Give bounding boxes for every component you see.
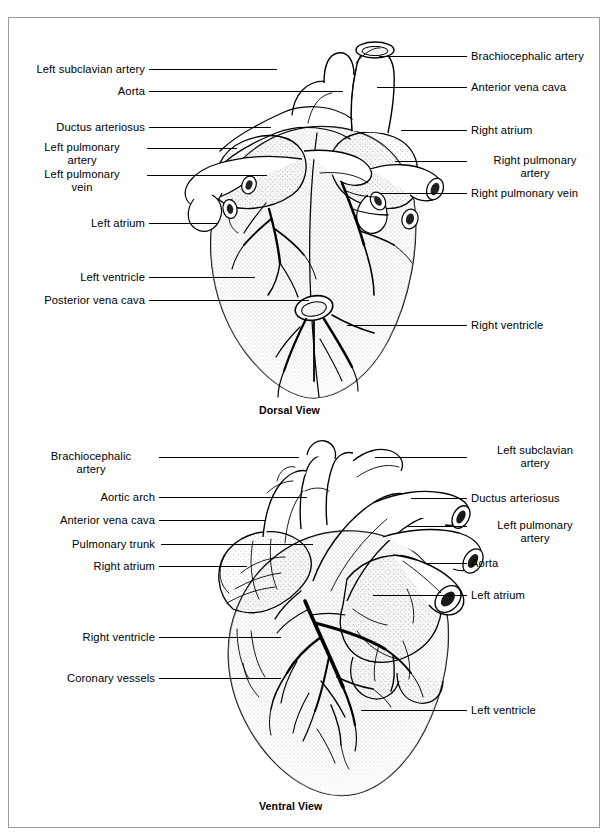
leader-anterior-vena-cava-dorsal	[377, 87, 467, 88]
label-left-pulmonary-vein-dorsal: Left pulmonary vein	[19, 168, 145, 195]
label-left-ventricle-ventral: Left ventricle	[471, 704, 599, 717]
leader-ductus-arteriosus-dorsal	[149, 127, 271, 128]
label-right-ventricle-ventral: Right ventricle	[19, 631, 155, 644]
leader-brachiocephalic-artery-ventral	[159, 457, 299, 458]
leader-aortic-arch-ventral	[159, 497, 307, 498]
ventral-heart-illustration	[197, 433, 497, 808]
leader-left-subclavian-artery-dorsal	[149, 69, 277, 70]
caption-dorsal-view: Dorsal View	[259, 404, 320, 416]
label-left-atrium-ventral: Left atrium	[471, 589, 599, 602]
dorsal-heart-illustration	[174, 23, 464, 408]
leader-right-ventricle-ventral	[159, 637, 281, 638]
leader-aorta-dorsal	[149, 91, 343, 92]
leader-ductus-arteriosus-ventral	[411, 498, 467, 499]
label-left-pulmonary-artery-ventral: Left pulmonary artery	[471, 519, 599, 546]
caption-ventral-view: Ventral View	[259, 800, 322, 812]
label-anterior-vena-cava-dorsal: Anterior vena cava	[471, 81, 599, 94]
label-brachiocephalic-artery-dorsal: Brachiocephalic artery	[471, 50, 599, 63]
leader-anterior-vena-cava-ventral	[159, 520, 265, 521]
leader-right-atrium-dorsal	[401, 130, 467, 131]
label-right-ventricle-dorsal: Right ventricle	[471, 319, 599, 332]
label-pulmonary-trunk-ventral: Pulmonary trunk	[19, 538, 155, 551]
leader-left-pulmonary-vein-dorsal	[147, 175, 267, 176]
label-left-pulmonary-artery-dorsal: Left pulmonary artery	[19, 141, 145, 168]
figure-frame: Left subclavian artery Aorta Ductus arte…	[8, 17, 600, 828]
leader-left-subclavian-artery-ventral	[375, 457, 467, 458]
label-ductus-arteriosus-dorsal: Ductus arteriosus	[13, 121, 145, 134]
leader-posterior-vena-cava-dorsal	[149, 300, 309, 301]
leader-aorta-ventral	[427, 563, 467, 564]
label-left-subclavian-artery-ventral: Left subclavian artery	[471, 444, 599, 471]
label-right-atrium-dorsal: Right atrium	[471, 124, 599, 137]
label-coronary-vessels-ventral: Coronary vessels	[19, 672, 155, 685]
leader-left-atrium-dorsal	[149, 223, 217, 224]
label-right-atrium-ventral: Right atrium	[19, 560, 155, 573]
label-left-atrium-dorsal: Left atrium	[13, 217, 145, 230]
leader-left-atrium-ventral	[373, 595, 467, 596]
leader-left-ventricle-dorsal	[149, 277, 255, 278]
label-ductus-arteriosus-ventral: Ductus arteriosus	[471, 492, 599, 505]
label-anterior-vena-cava-ventral: Anterior vena cava	[19, 514, 155, 527]
label-aortic-arch-ventral: Aortic arch	[19, 491, 155, 504]
leader-right-ventricle-dorsal	[347, 325, 467, 326]
figure-page: Left subclavian artery Aorta Ductus arte…	[0, 0, 610, 840]
label-aorta-dorsal: Aorta	[13, 85, 145, 98]
leader-right-atrium-ventral	[159, 566, 247, 567]
label-right-pulmonary-artery-dorsal: Right pulmonary artery	[471, 154, 599, 181]
label-posterior-vena-cava-dorsal: Posterior vena cava	[13, 294, 145, 307]
label-left-ventricle-dorsal: Left ventricle	[13, 271, 145, 284]
label-brachiocephalic-artery-ventral: Brachiocephalic artery	[27, 450, 155, 477]
leader-pulmonary-trunk-ventral	[161, 544, 313, 545]
label-aorta-ventral: Aorta	[471, 557, 599, 570]
leader-left-pulmonary-artery-dorsal	[147, 148, 237, 149]
leader-right-pulmonary-artery-dorsal	[395, 161, 467, 162]
leader-left-ventricle-ventral	[361, 710, 467, 711]
leader-left-pulmonary-artery-ventral	[407, 526, 467, 527]
label-right-pulmonary-vein-dorsal: Right pulmonary vein	[471, 187, 599, 200]
leader-brachiocephalic-artery-dorsal	[379, 56, 467, 57]
label-left-subclavian-artery-dorsal: Left subclavian artery	[13, 63, 145, 76]
leader-coronary-vessels-ventral	[159, 678, 281, 679]
leader-right-pulmonary-vein-dorsal	[379, 193, 467, 194]
